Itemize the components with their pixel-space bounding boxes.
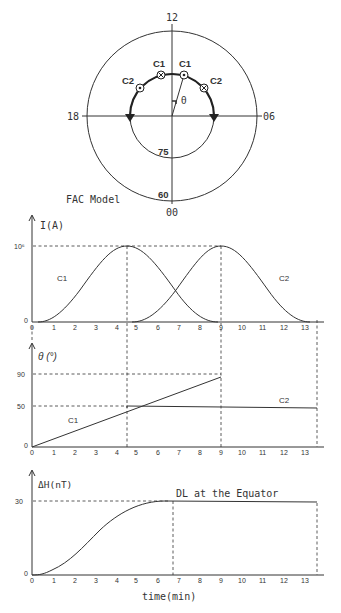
fac-model-diagram: θ C2 C1 C1 C2 12 18 06 00 75 60 FAC Mode…: [66, 12, 275, 218]
delta-h-chart: ΔH(nT) 30 0 DL at the Equator: [15, 470, 324, 577]
c2-theta-line: [127, 406, 317, 408]
theta-arc-icon: [172, 101, 176, 104]
right-triangle-icon: [209, 114, 219, 122]
mlt-label-00: 00: [166, 207, 178, 218]
svg-text:7: 7: [177, 324, 181, 331]
lat-label-60: 60: [158, 189, 169, 200]
c1-label: C1: [68, 416, 79, 425]
c1-left-in-icon: [157, 71, 165, 79]
c1-right-out-icon: [180, 71, 188, 79]
label-c1-left: C1: [153, 58, 166, 69]
svg-text:5: 5: [134, 577, 138, 584]
c1-theta-line: [32, 377, 221, 447]
svg-text:11: 11: [259, 449, 266, 456]
svg-text:2: 2: [73, 324, 77, 331]
label-c2-right: C2: [210, 75, 222, 86]
svg-text:11: 11: [259, 324, 266, 331]
c2-left-out-icon: [136, 84, 144, 92]
current-x-ticks: 0 1 2 3 4 5 6 7 8 9 10 11 12 13: [30, 324, 309, 331]
svg-text:3: 3: [94, 449, 98, 456]
theta-label: θ: [181, 95, 187, 106]
svg-text:10: 10: [238, 577, 246, 584]
c2-label: C2: [279, 274, 290, 283]
current-chart: I(A) 10⁶ 0 C1 C2: [14, 215, 324, 324]
svg-text:1: 1: [52, 449, 56, 456]
svg-text:3: 3: [94, 577, 98, 584]
svg-text:3: 3: [94, 324, 98, 331]
svg-text:9: 9: [219, 324, 223, 331]
y-axis-label: I(A): [40, 220, 64, 231]
svg-text:8: 8: [198, 449, 202, 456]
c1-current-curve: [38, 246, 218, 322]
label-c2-left: C2: [122, 75, 134, 86]
svg-text:12: 12: [280, 449, 288, 456]
svg-text:5: 5: [134, 449, 138, 456]
svg-text:8: 8: [198, 577, 202, 584]
svg-text:7: 7: [177, 449, 181, 456]
y-tick-0: 0: [24, 317, 28, 324]
svg-text:13: 13: [301, 577, 309, 584]
svg-text:13: 13: [301, 449, 309, 456]
mlt-label-12: 12: [166, 12, 178, 23]
svg-text:4: 4: [115, 324, 119, 331]
delta-h-x-ticks: 0 1 2 3 4 5 6 7 8 9 10 11 12 13: [30, 577, 309, 584]
svg-text:11: 11: [259, 577, 266, 584]
svg-text:10: 10: [238, 324, 246, 331]
svg-text:4: 4: [115, 449, 119, 456]
svg-text:8: 8: [198, 324, 202, 331]
theta-x-ticks: 0 1 2 3 4 5 6 7 8 9 10 11 12 13: [30, 449, 309, 456]
c2-label: C2: [279, 396, 290, 405]
y-axis-label: θ (°): [38, 351, 57, 362]
mlt-label-06: 06: [263, 111, 275, 122]
dl-annotation: DL at the Equator: [176, 488, 278, 499]
y-tick-top: 10⁶: [14, 243, 25, 250]
svg-text:9: 9: [219, 449, 223, 456]
delta-h-curve: [32, 501, 317, 575]
svg-text:9: 9: [219, 577, 223, 584]
svg-text:12: 12: [280, 577, 288, 584]
svg-text:6: 6: [156, 324, 160, 331]
c1-label: C1: [57, 274, 68, 283]
label-c1-right: C1: [179, 58, 192, 69]
svg-text:7: 7: [177, 577, 181, 584]
svg-text:13: 13: [301, 324, 309, 331]
left-triangle-icon: [125, 114, 135, 122]
svg-text:1: 1: [52, 577, 56, 584]
svg-text:1: 1: [52, 324, 56, 331]
y-tick-0: 0: [24, 570, 28, 577]
y-tick-90: 90: [17, 371, 25, 378]
svg-text:2: 2: [73, 577, 77, 584]
svg-text:5: 5: [134, 324, 138, 331]
x-axis-label: time(min): [142, 591, 196, 602]
c2-right-in-icon: [200, 84, 208, 92]
y-tick-50: 50: [17, 403, 25, 410]
fac-model-caption: FAC Model: [66, 194, 120, 205]
svg-text:0: 0: [30, 449, 34, 456]
y-axis-label: ΔH(nT): [38, 479, 72, 490]
svg-text:2: 2: [73, 449, 77, 456]
svg-text:12: 12: [280, 324, 288, 331]
fac-figure: θ C2 C1 C1 C2 12 18 06 00 75 60 FAC Mode…: [0, 0, 341, 613]
svg-text:6: 6: [156, 449, 160, 456]
lat-label-75: 75: [158, 146, 169, 157]
svg-text:10: 10: [238, 449, 246, 456]
svg-text:6: 6: [156, 577, 160, 584]
svg-text:0: 0: [30, 577, 34, 584]
svg-text:4: 4: [115, 577, 119, 584]
svg-text:0: 0: [30, 324, 34, 331]
y-tick-30: 30: [15, 498, 23, 505]
mlt-label-18: 18: [67, 111, 79, 122]
theta-chart: θ (°) 90 50 0 C1 C2: [17, 343, 324, 449]
y-tick-0: 0: [24, 442, 28, 449]
